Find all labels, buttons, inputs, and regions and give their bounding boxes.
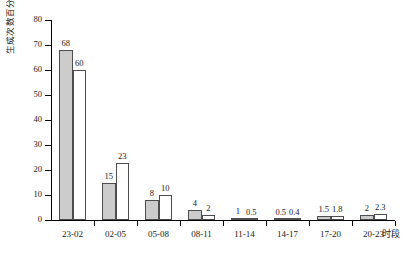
bar — [245, 218, 259, 220]
y-axis-tick-label: 40 — [18, 115, 42, 124]
x-axis-tick — [266, 221, 267, 226]
y-axis-tick-label-wrap: 40 — [14, 115, 42, 125]
bar — [374, 214, 388, 220]
y-axis-tick-label: 20 — [18, 165, 42, 174]
y-axis-tick-label: 80 — [18, 15, 42, 24]
bar — [231, 218, 245, 221]
y-axis-tick-label-wrap: 30 — [14, 140, 42, 150]
y-axis-tick-label: 60 — [18, 65, 42, 74]
y-axis-tick-label: 30 — [18, 140, 42, 149]
bar — [145, 200, 159, 220]
bar — [360, 215, 374, 220]
y-axis-tick-label: 10 — [18, 190, 42, 199]
x-axis-tick — [223, 221, 224, 226]
bar-value-label: 23 — [108, 152, 136, 161]
plot-area: 686015238104210.50.50.41.51.822.3 — [51, 20, 395, 220]
x-axis-tick-label: 23-02 — [51, 229, 95, 240]
y-axis-title: 生成次数百分率(%) — [3, 0, 17, 75]
x-axis-tick-label: 05-08 — [137, 229, 181, 240]
bar-value-label: 0.4 — [280, 208, 308, 217]
x-axis-tick-label: 08-11 — [180, 229, 224, 240]
x-axis-tick — [94, 221, 95, 226]
bar — [202, 215, 216, 220]
y-axis-tick-label-wrap: 70 — [14, 40, 42, 50]
bar — [317, 216, 331, 220]
bar — [274, 218, 288, 220]
bar-value-label: 0.5 — [237, 208, 265, 217]
x-axis-tick — [352, 221, 353, 226]
bar-value-label: 10 — [151, 184, 179, 193]
x-axis-tick-label: 11-14 — [223, 229, 267, 240]
y-axis-tick-label-wrap: 0 — [14, 215, 42, 225]
bar — [59, 50, 73, 220]
x-axis-tick — [180, 221, 181, 226]
bar-value-label: 68 — [52, 39, 80, 48]
bar-value-label: 2.3 — [366, 203, 394, 212]
x-axis-tick — [395, 221, 396, 226]
bar — [116, 163, 130, 221]
x-axis-tick-label: 02-05 — [94, 229, 138, 240]
bar-value-label: 2 — [194, 204, 222, 213]
bar — [102, 183, 116, 221]
x-axis-tick-label: 14-17 — [266, 229, 310, 240]
y-axis-tick-label-wrap: 10 — [14, 190, 42, 200]
bar — [73, 70, 87, 220]
bar-chart: 生成次数百分率(%) 01020304050607080 68601523810… — [0, 0, 417, 269]
bar-value-label: 1.8 — [323, 205, 351, 214]
x-axis-tick — [309, 221, 310, 226]
x-axis-tick — [137, 221, 138, 226]
y-axis-tick — [45, 220, 52, 221]
y-axis-tick-label-wrap: 60 — [14, 65, 42, 75]
bar — [288, 218, 302, 220]
y-axis-tick-label-wrap: 20 — [14, 165, 42, 175]
x-axis-title: 时段 — [382, 229, 400, 240]
y-axis-tick-label: 70 — [18, 40, 42, 49]
bar-value-label: 60 — [65, 59, 93, 68]
y-axis-tick-label-wrap: 80 — [14, 15, 42, 25]
y-axis-tick-label-wrap: 50 — [14, 90, 42, 100]
bar — [159, 195, 173, 220]
x-axis-tick-label: 17-20 — [309, 229, 353, 240]
bar — [331, 216, 345, 221]
y-axis-tick-label: 0 — [18, 215, 42, 224]
y-axis-tick-label: 50 — [18, 90, 42, 99]
